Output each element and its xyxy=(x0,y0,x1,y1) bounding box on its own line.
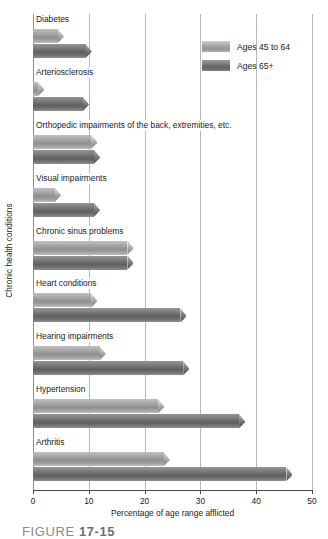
bar-cap xyxy=(239,414,245,428)
bar-body xyxy=(33,293,91,307)
bar-ages-65-plus xyxy=(33,150,100,164)
x-tick-label: 30 xyxy=(196,496,205,506)
bar-body xyxy=(33,361,183,375)
bar-ages-45-64 xyxy=(33,82,44,96)
x-tick xyxy=(312,490,313,494)
category-label: Visual impairments xyxy=(35,173,109,184)
legend-swatch xyxy=(202,60,230,71)
legend-entry: Ages 45 to 64 xyxy=(202,39,290,54)
y-axis-title: Chronic health conditions xyxy=(0,0,18,500)
bar-ages-45-64 xyxy=(33,346,106,360)
bar-ages-45-64 xyxy=(33,293,97,307)
bar-cap xyxy=(100,346,106,360)
bar-cap xyxy=(86,44,92,58)
bar-cap xyxy=(38,82,44,96)
chart-legend: Ages 45 to 64Ages 65+ xyxy=(202,39,290,77)
x-axis-title: Percentage of age range afflicted xyxy=(33,508,312,518)
x-axis: 01020304050 xyxy=(33,490,312,491)
bar-body xyxy=(33,188,55,202)
category-group: Arthritis xyxy=(33,437,312,490)
category-group: Hypertension xyxy=(33,384,312,437)
bar-ages-45-64 xyxy=(33,399,164,413)
x-tick xyxy=(33,490,34,494)
bar-cap xyxy=(183,361,189,375)
bar-ages-65-plus xyxy=(33,414,245,428)
category-group: Hearing impairments xyxy=(33,331,312,384)
bar-cap xyxy=(83,97,89,111)
bar-ages-65-plus xyxy=(33,97,89,111)
bar-ages-45-64 xyxy=(33,135,97,149)
bar-ages-65-plus xyxy=(33,308,186,322)
bar-body xyxy=(33,29,58,43)
category-label: Chronic sinus problems xyxy=(35,226,126,237)
gridline-50 xyxy=(312,14,313,490)
category-group: Visual impairments xyxy=(33,173,312,226)
bar-cap xyxy=(286,467,292,481)
bar-body xyxy=(33,150,94,164)
legend-swatch xyxy=(202,41,230,52)
category-label: Orthopedic impairments of the back, extr… xyxy=(35,120,234,131)
bar-cap xyxy=(55,188,61,202)
x-tick-label: 50 xyxy=(307,496,316,506)
bar-ages-45-64 xyxy=(33,452,170,466)
bar-ages-45-64 xyxy=(33,188,61,202)
bar-cap xyxy=(94,203,100,217)
x-tick xyxy=(256,490,257,494)
x-tick xyxy=(145,490,146,494)
bar-body xyxy=(33,203,94,217)
figure-caption: FIGURE 17-15 xyxy=(22,524,115,539)
bar-body xyxy=(33,44,86,58)
x-tick-label: 10 xyxy=(84,496,93,506)
plot-area: DiabetesArteriosclerosisOrthopedic impai… xyxy=(33,14,312,490)
category-group: Chronic sinus problems xyxy=(33,226,312,279)
bar-body xyxy=(33,97,83,111)
figure-root: Chronic health conditions DiabetesArteri… xyxy=(0,0,328,539)
bar-body xyxy=(33,399,158,413)
category-label: Arteriosclerosis xyxy=(35,67,95,78)
legend-entry: Ages 65+ xyxy=(202,58,290,73)
bar-cap xyxy=(91,293,97,307)
bars-layer: DiabetesArteriosclerosisOrthopedic impai… xyxy=(33,14,312,490)
category-label: Hearing impairments xyxy=(35,331,115,342)
bar-ages-65-plus xyxy=(33,203,100,217)
category-label: Heart conditions xyxy=(35,278,99,289)
bar-ages-65-plus xyxy=(33,361,189,375)
y-axis-title-text: Chronic health conditions xyxy=(5,203,14,297)
legend-label: Ages 65+ xyxy=(237,61,274,71)
legend-label: Ages 45 to 64 xyxy=(237,42,290,52)
bar-ages-45-64 xyxy=(33,29,64,43)
bar-body xyxy=(33,414,239,428)
bar-ages-65-plus xyxy=(33,44,92,58)
category-label: Diabetes xyxy=(35,14,71,25)
bar-body xyxy=(33,308,180,322)
x-tick-label: 40 xyxy=(252,496,261,506)
figure-caption-number: 17-15 xyxy=(79,524,115,539)
category-group: Orthopedic impairments of the back, extr… xyxy=(33,120,312,173)
bar-cap xyxy=(180,308,186,322)
x-tick-label: 0 xyxy=(31,496,36,506)
bar-cap xyxy=(94,150,100,164)
x-tick xyxy=(200,490,201,494)
bar-cap xyxy=(58,29,64,43)
bar-body xyxy=(33,452,164,466)
x-tick xyxy=(89,490,90,494)
bar-ages-45-64 xyxy=(33,241,133,255)
bar-body xyxy=(33,82,38,96)
bar-body xyxy=(33,135,91,149)
bar-cap xyxy=(127,256,133,270)
figure-caption-word: FIGURE xyxy=(22,524,75,539)
bar-cap xyxy=(127,241,133,255)
category-group: Heart conditions xyxy=(33,278,312,331)
bar-body xyxy=(33,256,127,270)
bar-cap xyxy=(164,452,170,466)
category-label: Hypertension xyxy=(35,384,87,395)
bar-body xyxy=(33,467,286,481)
bar-body xyxy=(33,241,127,255)
bar-cap xyxy=(158,399,164,413)
bar-body xyxy=(33,346,100,360)
category-label: Arthritis xyxy=(35,437,66,448)
x-tick-label: 20 xyxy=(140,496,149,506)
bar-ages-65-plus xyxy=(33,467,292,481)
bar-ages-65-plus xyxy=(33,256,133,270)
bar-cap xyxy=(91,135,97,149)
